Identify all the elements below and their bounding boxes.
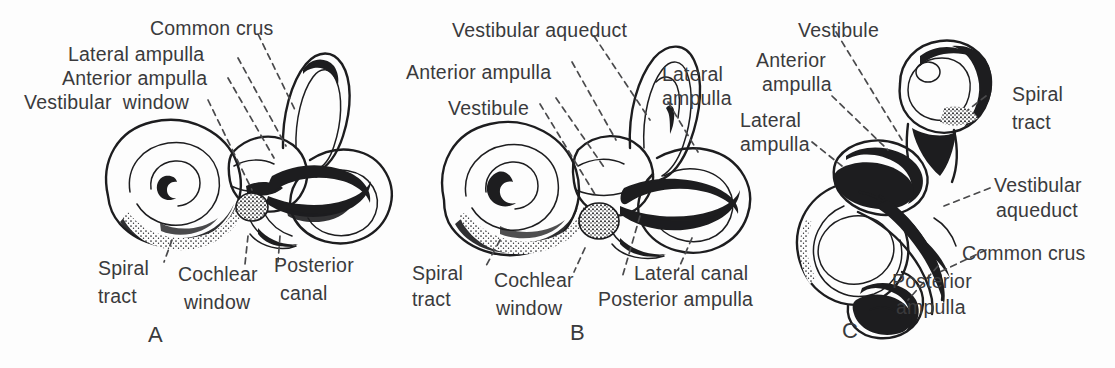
inner-ear-labyrinth-figure: Common crus Lateral ampulla Anterior amp… — [0, 0, 1115, 368]
panel-letter-c: C — [842, 318, 858, 344]
label-anterior-ampulla-c-line2: ampulla — [762, 74, 832, 95]
label-spiral-tract-c-line2: tract — [1012, 112, 1051, 133]
label-anterior-ampulla-b: Anterior ampulla — [406, 62, 551, 83]
label-cochlear-window-a-line2: window — [184, 292, 250, 313]
label-vestibular-aqueduct-c-line1: Vestibular — [994, 175, 1082, 196]
label-lateral-ampulla-c-line1: Lateral — [740, 110, 801, 131]
panel-letter-b: B — [570, 320, 585, 346]
label-spiral-tract-a-line1: Spiral — [98, 258, 149, 279]
label-vestibule-c: Vestibule — [798, 20, 879, 41]
label-spiral-tract-b-line2: tract — [412, 289, 451, 310]
label-cochlear-window-b-line1: Cochlear — [494, 270, 574, 291]
label-lateral-ampulla-b-line2: ampulla — [662, 88, 732, 109]
label-cochlear-window-b-line2: window — [496, 298, 562, 319]
label-common-crus-a: Common crus — [150, 18, 274, 39]
panel-letter-a: A — [148, 322, 163, 348]
label-posterior-canal-a-line1: Posterior — [274, 255, 354, 276]
label-anterior-ampulla-a: Anterior ampulla — [62, 68, 207, 89]
label-spiral-tract-b-line1: Spiral — [412, 263, 463, 284]
label-lateral-ampulla-b-line1: Lateral — [662, 64, 723, 85]
label-common-crus-c: Common crus — [962, 243, 1086, 264]
label-spiral-tract-a-line2: tract — [98, 286, 137, 307]
label-posterior-ampulla-c-line2: ampulla — [896, 297, 966, 318]
label-vestibular-aqueduct-c-line2: aqueduct — [996, 200, 1078, 221]
label-lateral-ampulla-a: Lateral ampulla — [68, 44, 204, 65]
label-lateral-ampulla-c-line2: ampulla — [740, 134, 810, 155]
label-spiral-tract-c-line1: Spiral — [1012, 84, 1063, 105]
label-posterior-ampulla-c-line1: Posterior — [892, 271, 972, 292]
label-vestibular-window-a: Vestibular window — [24, 92, 189, 113]
label-lateral-canal-b: Lateral canal — [634, 263, 748, 284]
label-anterior-ampulla-c-line1: Anterior — [756, 50, 826, 71]
label-posterior-ampulla-b: Posterior ampulla — [598, 289, 753, 310]
label-vestibule-b: Vestibule — [448, 98, 529, 119]
label-posterior-canal-a-line2: canal — [280, 283, 328, 304]
label-cochlear-window-a-line1: Cochlear — [178, 264, 258, 285]
label-vestibular-aqueduct-b: Vestibular aqueduct — [452, 20, 627, 41]
